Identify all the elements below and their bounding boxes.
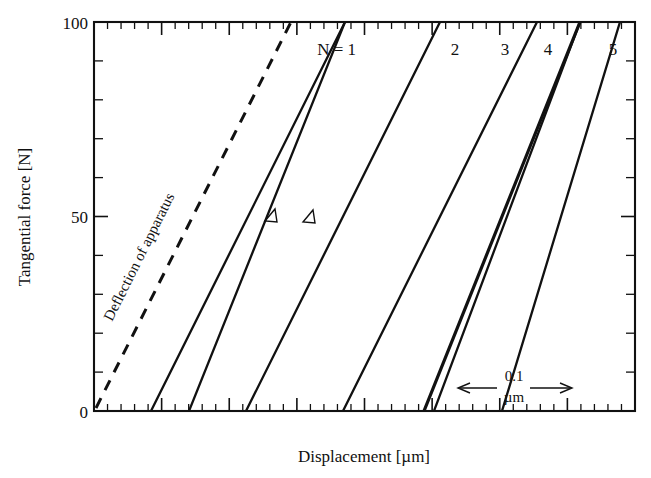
scale-bar-value: 0.1 bbox=[505, 368, 524, 384]
chart-svg: 100 50 0 Tangential force [N] Displaceme… bbox=[0, 0, 651, 478]
curve-n4-loading bbox=[424, 22, 580, 411]
curve-n5 bbox=[502, 22, 620, 411]
deflection-of-apparatus-label: Deflection of apparatus bbox=[100, 190, 177, 323]
curve-n1-loading bbox=[151, 22, 345, 411]
curve-label-n5: 5 bbox=[609, 40, 618, 59]
plot-frame bbox=[94, 22, 635, 411]
y-tick-label-50: 50 bbox=[71, 208, 88, 227]
y-axis-label: Tangential force [N] bbox=[15, 148, 34, 287]
scale-bar: 0.1 µm bbox=[458, 368, 572, 405]
curve-label-n2: 2 bbox=[451, 40, 460, 59]
curve-n1-unloading bbox=[189, 22, 345, 411]
curve-label-n1: N = 1 bbox=[317, 40, 356, 59]
y-tick-label-0: 0 bbox=[80, 403, 89, 422]
x-axis-ticks-top bbox=[108, 22, 622, 35]
curve-label-n4: 4 bbox=[544, 40, 553, 59]
y-axis-ticks-right bbox=[621, 22, 635, 411]
x-axis-ticks-bottom bbox=[108, 398, 622, 411]
y-axis-ticks bbox=[94, 22, 108, 411]
x-axis-label: Displacement [µm] bbox=[298, 447, 430, 466]
scale-bar-unit: µm bbox=[504, 389, 525, 405]
curve-n2 bbox=[246, 22, 440, 411]
figure-container: 100 50 0 Tangential force [N] Displaceme… bbox=[0, 0, 651, 478]
y-tick-label-100: 100 bbox=[63, 14, 89, 33]
curve-label-n3: 3 bbox=[501, 40, 510, 59]
curve-deflection-of-apparatus bbox=[96, 22, 291, 408]
direction-arrowhead-n1-unloading bbox=[303, 210, 315, 223]
